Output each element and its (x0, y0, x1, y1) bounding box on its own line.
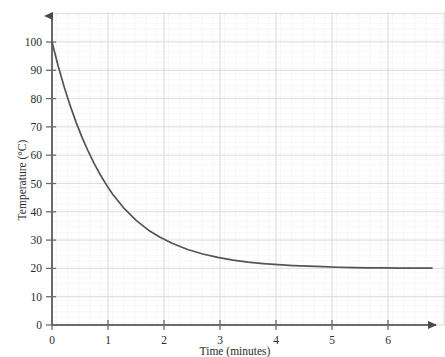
y-tick-label: 0 (36, 319, 42, 331)
cooling-curve-chart: 0 10 20 30 40 50 60 70 80 90 100 0 1 2 3… (0, 0, 445, 357)
y-tick-label: 70 (31, 121, 43, 133)
y-tick-label: 20 (31, 262, 43, 274)
x-tick-label: 5 (329, 334, 335, 346)
y-tick-label: 80 (31, 93, 43, 105)
y-tick-label: 60 (31, 149, 43, 161)
y-axis-title: Temperature (°C) (16, 139, 29, 220)
y-tick-label: 50 (31, 178, 43, 190)
x-tick-label: 2 (161, 334, 167, 346)
y-tick-label: 10 (31, 291, 43, 303)
y-tick-label: 100 (25, 36, 43, 48)
y-tick-label: 30 (31, 234, 43, 246)
chart-canvas: 0 10 20 30 40 50 60 70 80 90 100 0 1 2 3… (0, 0, 445, 357)
x-axis-title: Time (minutes) (200, 345, 271, 357)
grid-minor (52, 12, 445, 325)
x-tick-label: 4 (273, 334, 279, 346)
x-tick-label: 6 (385, 334, 391, 346)
x-tick-label: 0 (49, 334, 55, 346)
x-tick-label: 1 (105, 334, 111, 346)
y-tick-label: 90 (31, 64, 43, 76)
y-tick-label: 40 (31, 206, 43, 218)
